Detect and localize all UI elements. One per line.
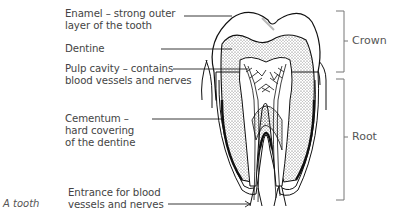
enamel-label: Enamel – strong outer layer of the tooth xyxy=(65,8,175,32)
dentine-label: Dentine xyxy=(65,43,104,55)
entrance-label: Entrance for blood vessels and nerves xyxy=(68,187,164,211)
root-label: Root xyxy=(352,130,377,143)
region-brackets xyxy=(336,11,348,200)
crown-label: Crown xyxy=(352,34,387,47)
tooth-diagram xyxy=(0,0,401,224)
cementum-label: Cementum – hard covering of the dentine xyxy=(65,113,135,149)
pulp-cavity-label: Pulp cavity – contains blood vessels and… xyxy=(65,63,192,87)
figure-caption: A tooth xyxy=(3,198,39,209)
